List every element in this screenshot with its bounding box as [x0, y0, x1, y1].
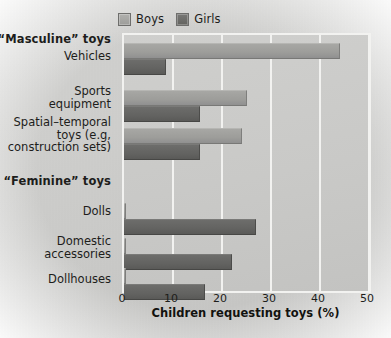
chart-figure: Boys Girls “Masculine” toysVehiclesSport… — [0, 0, 391, 338]
x-tick-0: 0 — [119, 292, 126, 305]
bar-group — [124, 203, 369, 235]
y-axis-label-line: Spatial–temporal — [0, 116, 111, 129]
bar-girls — [124, 144, 200, 160]
bar-series-container — [124, 35, 369, 291]
legend-label-boys: Boys — [136, 12, 164, 26]
y-axis-label-fem-header: “Feminine” toys — [0, 175, 111, 188]
bar-group — [124, 43, 369, 75]
y-axis-label-domestic: Domesticaccessories — [0, 235, 111, 260]
bar-group — [124, 128, 369, 160]
y-axis-label-line: Dolls — [0, 205, 111, 218]
x-axis-title: Children requesting toys (%) — [122, 306, 369, 320]
bar-group — [124, 90, 369, 122]
y-axis-label-masc-header: “Masculine” toys — [0, 33, 111, 46]
legend-swatch-boys-icon — [118, 13, 131, 26]
y-axis-label-spatial: Spatial–temporaltoys (e.g,construction s… — [0, 116, 111, 154]
x-tick-30: 30 — [262, 292, 276, 305]
bar-boys — [124, 90, 247, 106]
bar-group — [124, 238, 369, 270]
bar-girls — [124, 106, 200, 122]
x-tick-20: 20 — [213, 292, 227, 305]
legend-entry-boys: Boys — [118, 12, 164, 26]
x-tick-10: 10 — [164, 292, 178, 305]
y-axis-label-line: equipment — [0, 98, 111, 111]
y-axis-label-line: “Feminine” toys — [0, 175, 111, 188]
y-axis-label-line: Vehicles — [0, 50, 111, 63]
bar-boys — [124, 128, 242, 144]
y-axis-label-line: “Masculine” toys — [0, 33, 111, 46]
y-axis-label-line: Dollhouses — [0, 273, 111, 286]
bar-boys — [124, 203, 126, 219]
x-tick-50: 50 — [360, 292, 374, 305]
y-axis-labels: “Masculine” toysVehiclesSportsequipmentS… — [0, 28, 116, 294]
y-axis-label-line: accessories — [0, 248, 111, 261]
x-tick-40: 40 — [311, 292, 325, 305]
legend-entry-girls: Girls — [176, 12, 221, 26]
y-axis-label-dollhouses: Dollhouses — [0, 273, 111, 286]
legend-swatch-girls-icon — [176, 13, 189, 26]
bar-girls — [124, 59, 166, 75]
y-axis-label-line: Sports — [0, 85, 111, 98]
y-axis-label-vehicles: Vehicles — [0, 50, 111, 63]
y-axis-label-line: construction sets) — [0, 141, 111, 154]
chart-legend: Boys Girls — [118, 12, 221, 26]
plot-area — [122, 33, 371, 293]
x-axis-ticks: 01020304050 — [122, 292, 369, 306]
y-axis-label-line: Domestic — [0, 235, 111, 248]
bar-boys — [124, 43, 340, 59]
y-axis-label-sports: Sportsequipment — [0, 85, 111, 110]
y-axis-label-dolls: Dolls — [0, 205, 111, 218]
bar-boys — [124, 268, 126, 284]
bar-boys — [124, 238, 126, 254]
bar-girls — [124, 219, 256, 235]
legend-label-girls: Girls — [194, 12, 221, 26]
